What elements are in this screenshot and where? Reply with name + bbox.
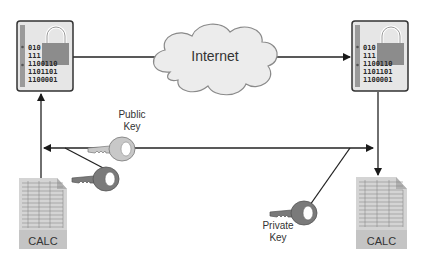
public-key-label-line2: Key: [123, 121, 140, 132]
binary-line: 111: [28, 52, 41, 60]
private-key-label-line2: Key: [269, 232, 286, 243]
internet-cloud: Internet: [154, 24, 278, 95]
binary-line: 1100110: [28, 60, 58, 68]
public-key-label-line1: Public: [118, 109, 145, 120]
private-key-line: [310, 148, 350, 205]
receiver-document-icon: CALC: [356, 177, 407, 249]
encryption-diagram: Internet 010 111 1100110 1101101 1100001…: [0, 0, 427, 256]
key-icon: [72, 167, 119, 191]
binary-line: 1100001: [28, 76, 58, 84]
internet-label: Internet: [191, 48, 239, 64]
binary-line: 1100110: [363, 60, 393, 68]
binary-line: 1100001: [363, 76, 393, 84]
receiver-server: 010 111 1100110 1101101 1100001: [352, 21, 408, 91]
sender-document-icon: CALC: [19, 178, 67, 249]
binary-line: 111: [363, 52, 376, 60]
private-key-label-line1: Private: [262, 220, 294, 231]
receiver-document-label: CALC: [367, 235, 396, 247]
binary-line: 1101101: [363, 68, 393, 76]
binary-line: 1101101: [28, 68, 58, 76]
sender-server: 010 111 1100110 1101101 1100001: [17, 21, 73, 91]
binary-line: 010: [363, 44, 376, 52]
binary-line: 010: [28, 44, 41, 52]
sender-document-label: CALC: [28, 235, 57, 247]
public-key-icon: [88, 137, 135, 161]
